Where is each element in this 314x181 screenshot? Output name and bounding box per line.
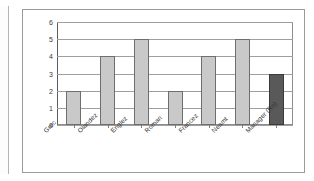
x-tick (175, 125, 176, 128)
gridline (57, 22, 293, 23)
y-tick-label: 6 (49, 19, 53, 26)
x-tick (141, 125, 142, 128)
bar (100, 56, 115, 125)
bar (168, 91, 183, 125)
x-category-label: Grec (42, 119, 57, 134)
gridline (57, 39, 293, 40)
bar (66, 91, 81, 125)
y-tick-label: 4 (49, 53, 53, 60)
plot-area: 0123456 (57, 22, 293, 125)
x-tick (74, 125, 75, 128)
bar (269, 74, 284, 126)
bar (134, 39, 149, 125)
adjacent-object-sliver (0, 6, 9, 174)
x-tick (276, 125, 277, 128)
y-tick-label: 3 (49, 70, 53, 77)
gridline (57, 56, 293, 57)
y-tick-label: 2 (49, 87, 53, 94)
chart-frame: 0123456 GrecOlandezEnglezRomanFrancezNea… (22, 9, 305, 173)
y-tick-label: 5 (49, 36, 53, 43)
bar (235, 39, 250, 125)
x-tick (242, 125, 243, 128)
x-tick (108, 125, 109, 128)
bar (201, 56, 216, 125)
y-tick-label: 1 (49, 104, 53, 111)
gridline (57, 74, 293, 75)
